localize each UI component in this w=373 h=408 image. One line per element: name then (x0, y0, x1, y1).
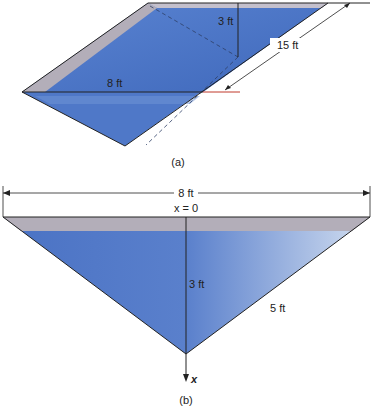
water-band (35, 96, 200, 104)
trough-diagram: 3 ft 15 ft 8 ft (a) 8 ft x = 0 x 3 ft 5 … (0, 0, 373, 408)
label-depth-b: 3 ft (189, 278, 204, 290)
label-depth-a: 3 ft (218, 15, 233, 27)
caption-a: (a) (171, 156, 184, 168)
figure-a: 3 ft 15 ft 8 ft (a) (22, 3, 370, 168)
arrowhead-icon (344, 3, 350, 8)
arrowhead-icon (363, 190, 370, 196)
label-origin: x = 0 (174, 202, 198, 214)
arrowhead-icon (3, 190, 10, 196)
arrowhead-icon (225, 85, 231, 90)
label-length-a: 15 ft (277, 39, 298, 51)
label-axis-x: x (190, 373, 198, 385)
label-width-a: 8 ft (107, 77, 122, 89)
label-side-b: 5 ft (270, 302, 285, 314)
arrow-down-icon (183, 374, 189, 382)
label-width-b: 8 ft (178, 187, 193, 199)
figure-b: 8 ft x = 0 x 3 ft 5 ft (b) (3, 186, 370, 406)
caption-b: (b) (179, 394, 192, 406)
